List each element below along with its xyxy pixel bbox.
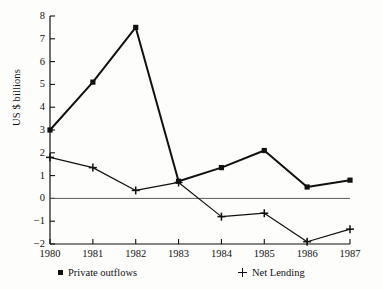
- data-point-square-marker: [219, 165, 224, 170]
- y-axis-title: US $ billions: [11, 50, 22, 146]
- x-axis-tick-label: 1981: [72, 248, 114, 260]
- legend-entry-net-lending: Net Lending: [238, 267, 305, 278]
- legend-label-net-lending: Net Lending: [252, 267, 305, 278]
- x-axis-tick-label: 1987: [329, 248, 371, 260]
- data-point-square-marker: [305, 184, 310, 189]
- chart-figure: US $ billions 876543210−1−2 198019811982…: [0, 0, 383, 289]
- x-axis-tick-label: 1980: [29, 248, 71, 260]
- y-axis-tick-label: 1: [23, 170, 45, 181]
- y-axis-tick-label: 3: [23, 124, 45, 135]
- y-axis-tick-label: 7: [23, 33, 45, 44]
- line-chart-plot: [0, 0, 383, 289]
- square-marker-icon: [58, 270, 63, 275]
- series-line-net-lending: [50, 157, 350, 241]
- plus-marker-icon: [238, 268, 247, 277]
- x-axis-tick-label: 1982: [115, 248, 157, 260]
- y-axis-tick-label: 4: [23, 101, 45, 112]
- data-point-plus-marker: [89, 164, 97, 172]
- data-point-plus-marker: [260, 209, 268, 217]
- x-axis-tick-label: 1983: [158, 248, 200, 260]
- x-axis-tick-label: 1985: [243, 248, 285, 260]
- data-point-square-marker: [262, 148, 267, 153]
- data-point-plus-marker: [346, 225, 354, 233]
- y-axis-tick-label: −1: [23, 215, 45, 226]
- x-axis-tick-label: 1984: [200, 248, 242, 260]
- y-axis-tick-label: 2: [23, 147, 45, 158]
- legend-label-private-outflows: Private outflows: [68, 267, 137, 278]
- y-axis-tick-label: 0: [23, 192, 45, 203]
- data-point-plus-marker: [132, 186, 140, 194]
- series-line-private-outflows: [50, 27, 350, 187]
- y-axis-tick-label: 6: [23, 56, 45, 67]
- data-point-square-marker: [90, 80, 95, 85]
- y-axis-tick-label: 8: [23, 10, 45, 21]
- chart-legend: Private outflows Net Lending: [0, 266, 383, 286]
- x-axis-tick-label: 1986: [286, 248, 328, 260]
- data-point-square-marker: [133, 25, 138, 30]
- data-point-square-marker: [47, 127, 52, 132]
- legend-entry-private-outflows: Private outflows: [58, 267, 137, 278]
- y-axis-tick-label: 5: [23, 78, 45, 89]
- data-point-plus-marker: [46, 153, 54, 161]
- data-point-square-marker: [347, 178, 352, 183]
